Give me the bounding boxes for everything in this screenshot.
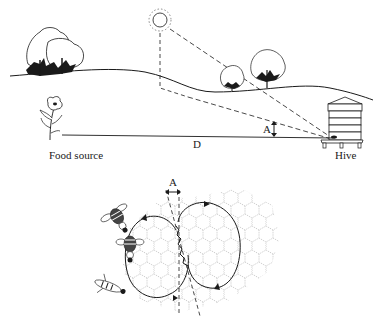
sun-icon: [149, 9, 171, 31]
sun-to-hive-line: [170, 29, 335, 140]
angle-label-bottom: A: [169, 177, 177, 188]
honeycomb: [122, 188, 280, 312]
hive-label: Hive: [335, 150, 356, 161]
beehive-icon: [321, 97, 363, 148]
food-source-label: Food source: [49, 150, 103, 161]
hill-line: [10, 69, 373, 100]
distance-label: D: [193, 139, 201, 150]
dance-angle-arrow-icon: [165, 189, 181, 195]
sun-vertical-line: [160, 33, 188, 97]
tree-icon: [26, 28, 84, 77]
bee-icon: [91, 272, 128, 302]
flower-icon: [40, 97, 62, 140]
angle-arrow-icon: [271, 121, 277, 137]
angle-label-top: A: [263, 124, 271, 135]
horizon-projection-line: [188, 97, 335, 140]
